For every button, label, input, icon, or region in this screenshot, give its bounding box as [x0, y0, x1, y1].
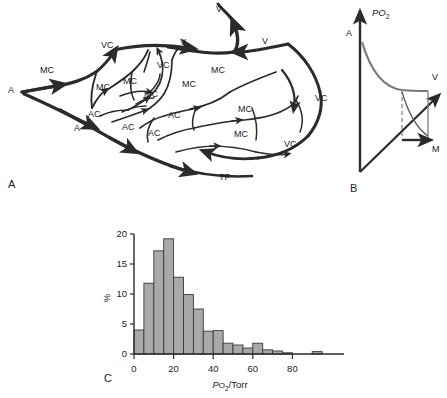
histogram-bar — [164, 239, 174, 354]
vessel-label: MC — [182, 79, 196, 89]
panel-c-letter: C — [104, 372, 112, 384]
vessel-venule-bottom-right — [206, 152, 258, 159]
vessel-mc-bottom — [210, 146, 256, 152]
vessel-label: MC — [96, 82, 110, 92]
histogram-bar — [174, 277, 184, 354]
histogram-bar — [233, 345, 243, 354]
histogram-bar — [213, 331, 223, 354]
panel-b-diagram: PO2 A V M — [338, 0, 447, 200]
vessel-label: A — [8, 85, 14, 95]
panel-b-diagonal-axis — [360, 98, 436, 172]
vessel-ac-loop-b — [112, 110, 146, 122]
panel-b-letter: B — [350, 182, 358, 194]
panel-b: PO2 A V M B — [338, 0, 447, 200]
vessel-connect-1 — [193, 108, 196, 130]
chart-x-label: PO2/Torr — [212, 379, 247, 392]
vessel-ac-bottom — [176, 146, 218, 152]
vessel-label: AC — [88, 109, 101, 119]
panel-b-point-label-v: V — [432, 72, 438, 82]
panel-b-axis-label: PO2 — [372, 7, 390, 20]
y-tick-label: 10 — [116, 288, 127, 299]
vessel-label: MC — [123, 76, 137, 86]
vessel-venule-right-desc — [288, 44, 320, 92]
histogram-bars — [134, 239, 322, 354]
x-tick-label: 40 — [208, 363, 219, 374]
vessel-label: V — [216, 4, 222, 14]
panel-a-letter: A — [8, 178, 16, 190]
vessel-label: AC — [122, 122, 135, 132]
vessel-label: VC — [284, 139, 297, 149]
x-tick-label: 0 — [131, 363, 136, 374]
vessel-venule-right-up — [282, 70, 295, 108]
vessel-arteriole-main2 — [22, 72, 96, 92]
histogram-bar — [243, 348, 253, 354]
chart-x-ticks: 020406080 — [131, 354, 297, 374]
y-tick-label: 5 — [122, 318, 127, 329]
histogram-bar — [253, 343, 263, 354]
vessel-label: MC — [40, 65, 54, 75]
panel-b-point-label-m: M — [432, 144, 440, 154]
histogram-bar — [144, 283, 154, 354]
vessel-label: MC — [144, 89, 158, 99]
figure-root: A MC VC V V V VC MC MC MC MC MC MC MC VC… — [0, 0, 447, 398]
vessel-mc-center2 — [190, 92, 230, 109]
histogram-bar — [203, 331, 213, 354]
vessel-label: MC — [211, 65, 225, 75]
vessel-arteriole-branch-up — [96, 52, 114, 72]
panel-b-tissue-curve — [402, 92, 428, 136]
panel-b-po2-curve — [362, 42, 428, 91]
vessel-label: V — [180, 37, 186, 47]
histogram-bar — [193, 309, 203, 354]
x-tick-label: 20 — [168, 363, 179, 374]
histogram-bar — [134, 330, 144, 354]
vessel-label: MC — [238, 104, 252, 114]
vessel-ac-center-low — [158, 128, 194, 140]
panel-c-histogram: 05101520 020406080 % PO2/Torr — [96, 212, 356, 398]
panel-a-diagram: A MC VC V V V VC MC MC MC MC MC MC MC VC… — [0, 0, 340, 200]
vessel-venule-collect — [234, 24, 238, 52]
histogram-bar — [223, 343, 233, 354]
vessel-label: AC — [168, 110, 181, 120]
chart-y-ticks: 05101520 — [116, 228, 134, 359]
y-tick-label: 20 — [116, 228, 127, 239]
vessel-label: V — [262, 36, 268, 46]
vessel-label: VC — [101, 40, 114, 50]
vessel-label: A — [74, 123, 80, 133]
vessel-mc-center3 — [230, 72, 276, 92]
x-tick-label: 60 — [248, 363, 259, 374]
y-tick-label: 0 — [122, 348, 127, 359]
histogram-bar — [154, 251, 164, 354]
vessel-label: AC — [148, 128, 161, 138]
y-tick-label: 15 — [116, 258, 127, 269]
histogram-bar — [184, 295, 194, 354]
vessel-label: MC — [234, 129, 248, 139]
panel-c: 05101520 020406080 % PO2/Torr C — [96, 212, 356, 398]
panel-b-point-label-a: A — [346, 28, 352, 38]
x-tick-label: 80 — [287, 363, 298, 374]
vessel-connect-3 — [252, 108, 257, 140]
vessel-label: VC — [315, 93, 328, 103]
chart-y-label: % — [101, 293, 112, 302]
vessel-arteriole-lower3 — [110, 138, 190, 172]
panel-a: A MC VC V V V VC MC MC MC MC MC MC MC VC… — [0, 0, 340, 200]
vessel-label: VC — [157, 60, 170, 70]
vessel-connect-4 — [296, 100, 302, 132]
vessel-label: TF — [219, 172, 230, 182]
